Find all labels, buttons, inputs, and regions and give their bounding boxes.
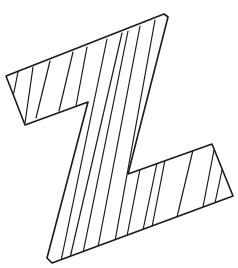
hatch-line bbox=[127, 169, 140, 236]
hatch-line bbox=[203, 150, 214, 207]
hatch-line bbox=[70, 33, 122, 258]
hatch-line bbox=[215, 170, 222, 203]
hatch-line bbox=[83, 31, 128, 253]
hatch-line bbox=[177, 150, 193, 217]
hatch-line bbox=[13, 72, 18, 97]
hatch-line bbox=[25, 67, 33, 123]
letter-z-svg bbox=[0, 0, 238, 268]
hatch-line bbox=[36, 61, 50, 118]
hatch-line bbox=[152, 160, 165, 227]
letter-z-outline bbox=[6, 14, 233, 263]
hatch-line bbox=[76, 47, 87, 106]
hatch-lines bbox=[13, 20, 222, 261]
letter-z-drawing: Hatched letter Z bbox=[0, 0, 238, 268]
hatch-line bbox=[143, 163, 157, 230]
hatch-line bbox=[59, 52, 73, 111]
